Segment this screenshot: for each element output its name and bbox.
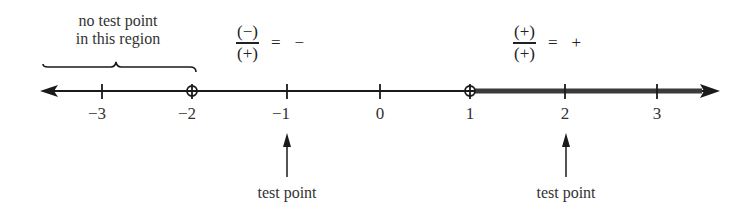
tick-label-1: 1 bbox=[466, 104, 475, 124]
fraction-result: − bbox=[295, 33, 305, 53]
region-note-line1: no test point bbox=[48, 12, 188, 30]
fraction-numerator: (−) bbox=[236, 23, 259, 41]
tick-label-2: 2 bbox=[561, 104, 570, 124]
equals-sign: = bbox=[548, 33, 558, 53]
tick-label-neg3: −3 bbox=[88, 104, 106, 124]
sign-fraction-negative: (−) (+) = − bbox=[236, 23, 304, 63]
test-point-arrow-1 bbox=[283, 133, 291, 177]
sign-fraction-positive: (+) (+) = + bbox=[513, 23, 581, 63]
test-point-label-2: test point bbox=[516, 184, 616, 202]
region-note-line2: in this region bbox=[48, 30, 188, 48]
tick-label-3: 3 bbox=[653, 104, 662, 124]
test-point-label-1: test point bbox=[237, 184, 337, 202]
fraction-numerator: (+) bbox=[513, 23, 536, 41]
tick-label-neg1: −1 bbox=[272, 104, 290, 124]
tick-label-neg2: −2 bbox=[178, 104, 196, 124]
region-note: no test point in this region bbox=[48, 12, 188, 48]
fraction-denominator: (+) bbox=[236, 45, 259, 63]
equals-sign: = bbox=[271, 33, 281, 53]
fraction-result: + bbox=[572, 33, 582, 53]
tick-label-0: 0 bbox=[376, 104, 385, 124]
fraction-denominator: (+) bbox=[513, 45, 536, 63]
region-brace bbox=[43, 62, 196, 72]
test-point-arrow-2 bbox=[562, 133, 570, 177]
